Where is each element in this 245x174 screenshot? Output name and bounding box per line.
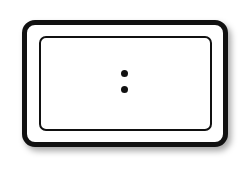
colon-dot-top-icon [121, 70, 128, 77]
screen-inner-frame [39, 36, 212, 131]
colon-dot-bottom-icon [121, 86, 128, 93]
